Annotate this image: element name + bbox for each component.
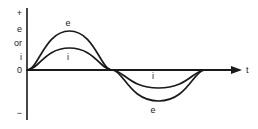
x-axis-arrowhead: [231, 66, 242, 74]
y-axis-or-label: or: [4, 39, 22, 48]
curve-label-i-bottom: i: [148, 72, 158, 81]
curve-label-i-top: i: [63, 53, 73, 62]
curve-label-e-bottom: e: [148, 106, 158, 115]
y-axis-i-label: i: [4, 53, 22, 62]
waveform-figure: + e or i 0 − t e i i e: [0, 0, 258, 129]
curve-voltage-e: [27, 31, 205, 101]
y-axis-plus-label: +: [4, 9, 22, 18]
y-axis-e-label: e: [4, 25, 22, 34]
y-axis-zero-label: 0: [4, 66, 22, 75]
waveform-plot: [0, 0, 258, 129]
curve-label-e-top: e: [63, 19, 73, 28]
y-axis-minus-label: −: [4, 109, 22, 118]
curve-current-i: [27, 48, 205, 88]
x-axis-label: t: [246, 66, 249, 75]
